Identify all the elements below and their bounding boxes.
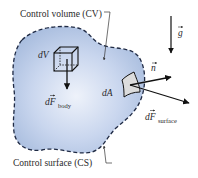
svg-text:surface: surface [158, 117, 177, 124]
dA-label: dA [102, 88, 113, 98]
svg-text:body: body [58, 102, 72, 109]
svg-text:dF: dF [145, 112, 156, 122]
control-volume-diagram: Control volume (CV) dV dF body g dA n dF… [0, 0, 198, 178]
control-surface-leader [104, 146, 112, 163]
surface-force-label: dF surface [145, 111, 177, 124]
normal-vector-label: n [151, 63, 157, 73]
dV-label: dV [38, 50, 50, 60]
svg-text:g: g [178, 28, 183, 38]
control-volume-label: Control volume (CV) [20, 9, 102, 20]
svg-text:n: n [151, 63, 156, 73]
svg-text:dF: dF [45, 97, 56, 107]
control-surface-label: Control surface (CS) [13, 158, 92, 169]
gravity-label: g [178, 27, 183, 38]
